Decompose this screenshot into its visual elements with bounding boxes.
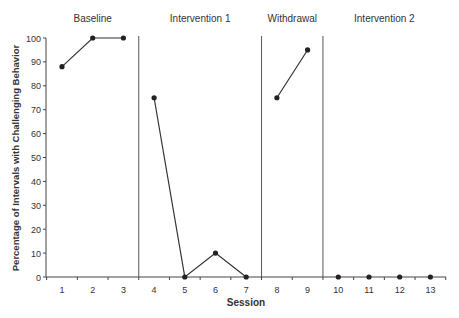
y-axis-label: Percentage of Intervals with Challenging… [10, 44, 21, 271]
y-tick-label: 0 [36, 273, 41, 283]
x-tick-label: 8 [274, 285, 279, 295]
data-point [428, 274, 433, 279]
data-point [397, 274, 402, 279]
x-tick-label: 5 [182, 285, 187, 295]
data-point [121, 35, 126, 40]
phase-labels: BaselineIntervention 1WithdrawalInterven… [74, 13, 416, 24]
y-tick-label: 100 [26, 34, 41, 44]
series-line [62, 38, 123, 67]
data-point [305, 47, 310, 52]
y-tick-label: 10 [31, 249, 41, 259]
x-axis-label: Session [227, 297, 265, 308]
phase-label: Baseline [74, 13, 113, 24]
series-line [277, 50, 308, 98]
x-tick-label: 2 [90, 285, 95, 295]
phase-label: Intervention 1 [170, 13, 231, 24]
phase-change-lines [139, 36, 323, 277]
y-tick-label: 40 [31, 177, 41, 187]
data-point [90, 35, 95, 40]
x-tick-label: 1 [59, 285, 64, 295]
data-point [59, 64, 64, 69]
x-tick-label: 13 [425, 285, 435, 295]
data-point [213, 251, 218, 256]
y-tick-label: 20 [31, 225, 41, 235]
data-point [366, 274, 371, 279]
x-tick-label: 9 [305, 285, 310, 295]
y-tick-label: 30 [31, 201, 41, 211]
x-tick-label: 3 [121, 285, 126, 295]
y-tick-label: 60 [31, 129, 41, 139]
data-point [244, 274, 249, 279]
single-case-design-chart: BaselineIntervention 1WithdrawalInterven… [0, 0, 459, 318]
data-point [274, 95, 279, 100]
data-series [59, 35, 433, 279]
x-tick-label: 12 [395, 285, 405, 295]
x-tick-label: 10 [333, 285, 343, 295]
y-tick-label: 70 [31, 105, 41, 115]
axes: 010203040506070809010012345678910111213 [26, 34, 446, 296]
x-tick-label: 7 [244, 285, 249, 295]
y-tick-label: 80 [31, 81, 41, 91]
x-tick-label: 11 [364, 285, 373, 295]
y-tick-label: 50 [31, 153, 41, 163]
x-tick-label: 4 [152, 285, 157, 295]
data-point [182, 274, 187, 279]
phase-label: Withdrawal [268, 13, 317, 24]
data-point [336, 274, 341, 279]
phase-label: Intervention 2 [354, 13, 415, 24]
series-line [154, 98, 246, 277]
data-point [152, 95, 157, 100]
y-tick-label: 90 [31, 57, 41, 67]
x-tick-label: 6 [213, 285, 218, 295]
